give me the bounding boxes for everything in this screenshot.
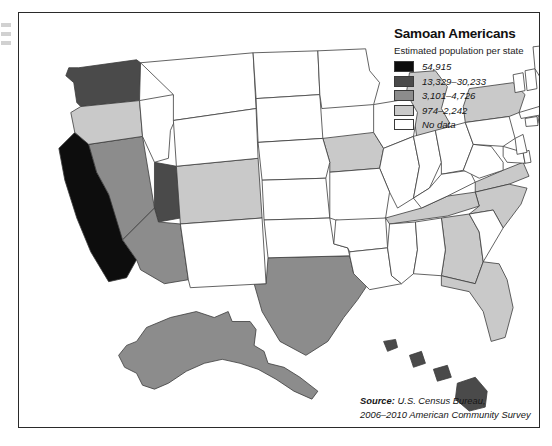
legend-label: 974–2,242 bbox=[422, 105, 467, 116]
map-legend: Samoan Americans Estimated population pe… bbox=[394, 27, 534, 132]
legend-label: 3,101–4,726 bbox=[422, 90, 475, 101]
legend-label: No data bbox=[422, 119, 456, 130]
source-line-2: 2006–2010 American Community Survey bbox=[360, 408, 531, 422]
state-or: Oregon bbox=[71, 101, 143, 145]
state-mo: Missouri bbox=[330, 168, 390, 224]
swatch-low bbox=[394, 105, 414, 116]
source-lead: Source: bbox=[360, 395, 395, 406]
state-al: Alabama bbox=[413, 218, 445, 276]
state-nm: New Mexico bbox=[180, 218, 266, 288]
state-nj: New Jersey bbox=[515, 134, 527, 154]
state-wa: Washington bbox=[66, 60, 141, 107]
legend-entries: 54,91513,329–30,2333,101–4,726974–2,242N… bbox=[394, 60, 534, 132]
state-tx: Texas bbox=[254, 256, 370, 356]
map-figure-frame: CaliforniaWashingtonUtahHawaiiTexasNevad… bbox=[18, 12, 540, 428]
legend-row: 54,915 bbox=[394, 60, 534, 74]
swatch-high bbox=[394, 76, 414, 87]
scan-edge-artifact bbox=[0, 18, 12, 78]
state-ia: Iowa bbox=[323, 132, 384, 172]
source-publisher: U.S. Census Bureau, bbox=[395, 395, 486, 406]
legend-row: No data bbox=[394, 118, 534, 132]
swatch-medium bbox=[394, 90, 414, 101]
state-ri: Rhode Island bbox=[538, 115, 539, 124]
swatch-highest bbox=[394, 61, 414, 72]
legend-label: 13,329–30,233 bbox=[422, 76, 486, 87]
legend-row: 13,329–30,233 bbox=[394, 74, 534, 88]
swatch-nodata bbox=[394, 119, 414, 130]
source-line-1: Source: U.S. Census Bureau, bbox=[360, 394, 531, 408]
state-sd: South Dakota bbox=[256, 95, 323, 143]
legend-row: 3,101–4,726 bbox=[394, 89, 534, 103]
legend-title: Samoan Americans bbox=[394, 27, 534, 42]
state-ms: Mississippi bbox=[388, 222, 418, 284]
legend-row: 974–2,242 bbox=[394, 103, 534, 117]
legend-label: 54,915 bbox=[422, 61, 451, 72]
state-mn: Minnesota bbox=[318, 49, 380, 109]
state-ne: Nebraska bbox=[258, 138, 330, 180]
state-ks: Kansas bbox=[262, 178, 330, 220]
source-note: Source: U.S. Census Bureau, 2006–2010 Am… bbox=[360, 394, 531, 421]
state-co: Colorado bbox=[176, 158, 262, 224]
legend-subtitle: Estimated population per state bbox=[394, 45, 534, 56]
state-nd: North Dakota bbox=[253, 51, 320, 99]
